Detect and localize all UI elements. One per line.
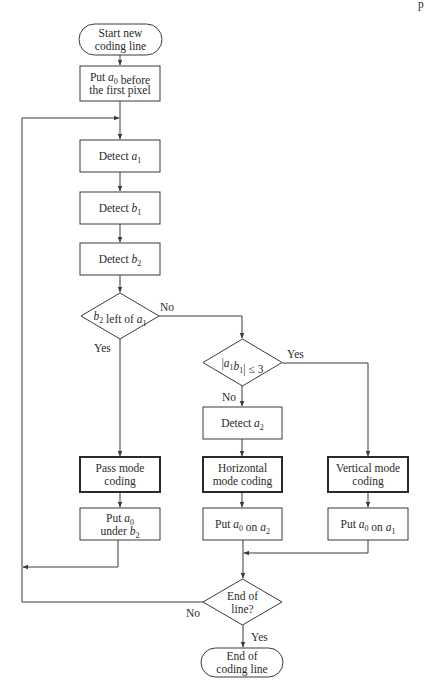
node-detect-a1: Detect a1 [80,140,160,172]
page-marker: p [418,0,424,11]
pass-mode-text: Pass mode [96,462,145,474]
put-a0-before-text: the first pixel [89,84,150,97]
decision-end-text: End of [227,590,258,602]
vertical-mode-text: Vertical mode [336,462,400,474]
label-b2-left-no: No [160,301,174,313]
node-decision-end: End ofline? [203,579,282,625]
label-a1b1-no: No [222,391,236,403]
end-text: End of [227,650,258,662]
node-pass-mode: Pass modecoding [80,457,160,492]
edge-vertical-merge [244,540,368,553]
horizontal-mode-text: mode coding [213,475,273,488]
node-put-a0-on-a2: Put a0 on a2 [203,508,282,540]
flowchart: p Start newcoding linePut a0 beforethe f… [0,0,428,682]
node-decision-a1b1: |a1b1| ≤ 3 [203,339,282,386]
node-start: Start newcoding line [79,24,162,55]
label-end-no: No [186,607,200,619]
nodes: Start newcoding linePut a0 beforethe fir… [79,24,408,677]
label-a1b1-yes: Yes [287,348,304,360]
decision-end-text: line? [231,603,253,615]
node-detect-b2: Detect b2 [80,243,160,275]
node-put-a0-before: Put a0 beforethe first pixel [80,66,160,101]
label-b2-left-yes: Yes [94,342,111,354]
node-detect-b1: Detect b1 [80,192,160,224]
edge-decision1-no [159,316,242,338]
start-text: Start new [99,27,143,39]
vertical-mode-text: coding [352,475,384,488]
node-detect-a2: Detect a2 [203,407,282,439]
node-end: End ofcoding line [201,648,283,677]
edge-decision2-yes [282,363,368,456]
edge-pass-return [23,540,118,567]
start-text: coding line [95,40,146,53]
edges [22,55,368,647]
node-vertical-mode: Vertical modecoding [328,457,408,492]
end-text: coding line [216,663,267,676]
node-horizontal-mode: Horizontalmode coding [203,457,282,492]
node-put-a0-under-b2: Put a0under b2 [80,508,160,540]
node-decision-b2-left: b2 left of a1 [81,293,159,339]
pass-mode-text: coding [104,475,136,488]
label-end-yes: Yes [251,631,268,643]
node-put-a0-on-a1: Put a0 on a1 [328,508,408,540]
horizontal-mode-text: Horizontal [218,462,267,474]
